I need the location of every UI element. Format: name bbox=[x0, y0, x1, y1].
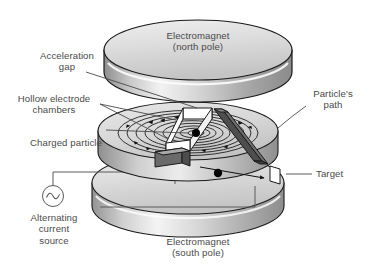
charged-particle-center bbox=[192, 129, 200, 137]
cyclotron-diagram-figure: Acceleration gap Hollow electrode chambe… bbox=[0, 0, 374, 280]
label-electromagnet-south: Electromagnet (south pole) bbox=[138, 236, 258, 259]
label-charged-particle: Charged particle bbox=[6, 137, 102, 148]
label-ac-source: Alternating current source bbox=[10, 212, 98, 246]
left-electrode-block bbox=[155, 148, 190, 167]
label-acceleration-gap: Acceleration gap bbox=[24, 50, 110, 73]
label-target: Target bbox=[316, 168, 372, 179]
label-particles-path: Particle's path bbox=[300, 88, 366, 111]
ac-source-symbol bbox=[43, 186, 64, 207]
label-electromagnet-north: Electromagnet (north pole) bbox=[148, 30, 248, 53]
hollow-electrode-dee-assembly bbox=[98, 102, 278, 181]
target-plate bbox=[270, 166, 280, 184]
target-face bbox=[270, 166, 280, 184]
label-hollow-electrode-chambers: Hollow electrode chambers bbox=[6, 93, 102, 116]
